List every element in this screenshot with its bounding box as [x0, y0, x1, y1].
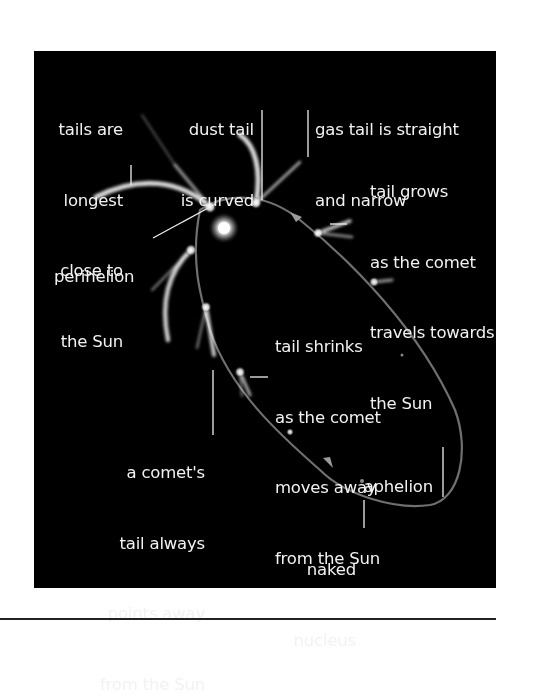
label-line: points away	[54, 602, 205, 626]
label-dust-tail: dust tail is curved	[134, 71, 254, 259]
comet-diagram-panel: tails are longest close to the Sun dust …	[34, 51, 496, 588]
label-line: as the comet	[275, 406, 381, 430]
label-tail-grows: tail grows as the comet travels towards …	[370, 133, 494, 462]
label-line: perihelion	[54, 265, 134, 289]
label-line: tail grows	[370, 180, 494, 204]
label-naked-nucleus: naked nucleus	[254, 511, 356, 694]
page-divider	[0, 618, 496, 620]
label-line: tail shrinks	[275, 335, 381, 359]
label-line: is curved	[134, 189, 254, 213]
label-line: the Sun	[370, 392, 494, 416]
label-line: tail always	[54, 532, 205, 556]
label-line: longest	[34, 189, 123, 213]
label-line: nucleus	[254, 629, 356, 653]
label-line: tails are	[34, 118, 123, 142]
label-line: dust tail	[134, 118, 254, 142]
label-line: aphelion	[334, 475, 433, 499]
label-tail-points-away: a comet's tail always points away from t…	[54, 414, 205, 694]
label-perihelion: perihelion	[54, 218, 134, 336]
label-line: travels towards	[370, 321, 494, 345]
label-line: a comet's	[54, 461, 205, 485]
label-line: from the Sun	[54, 673, 205, 694]
label-line: naked	[254, 558, 356, 582]
label-line: as the comet	[370, 251, 494, 275]
